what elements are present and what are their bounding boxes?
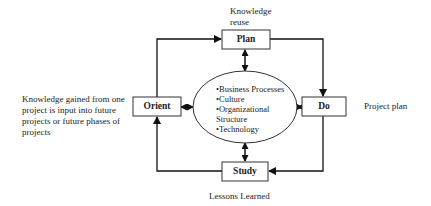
orient-label: Orient (133, 101, 181, 112)
orient-annotation: Knowledge gained from one project is inp… (22, 94, 125, 138)
study-label: Study (222, 166, 268, 177)
do-label: Do (302, 101, 346, 112)
center-item: •Technology (216, 124, 284, 134)
orient-annotation-line: projects or future phases of (22, 116, 125, 127)
center-factor-list: •Business Processes •Culture •Organizati… (216, 84, 284, 134)
plan-annotation: Knowledge reuse (230, 6, 272, 28)
plan-annotation-line: Knowledge (230, 6, 272, 17)
plan-annotation-line: reuse (230, 17, 272, 28)
orient-annotation-line: project is input into future (22, 105, 125, 116)
center-item: •Culture (216, 94, 284, 104)
orient-annotation-line: projects (22, 127, 125, 138)
center-item: Structure (216, 114, 284, 124)
center-item: •Business Processes (216, 84, 284, 94)
do-annotation: Project plan (364, 101, 407, 112)
study-annotation: Lessons Learned (209, 191, 270, 202)
center-item: •Organizational (216, 104, 284, 114)
orient-annotation-line: Knowledge gained from one (22, 94, 125, 105)
plan-label: Plan (222, 34, 270, 45)
